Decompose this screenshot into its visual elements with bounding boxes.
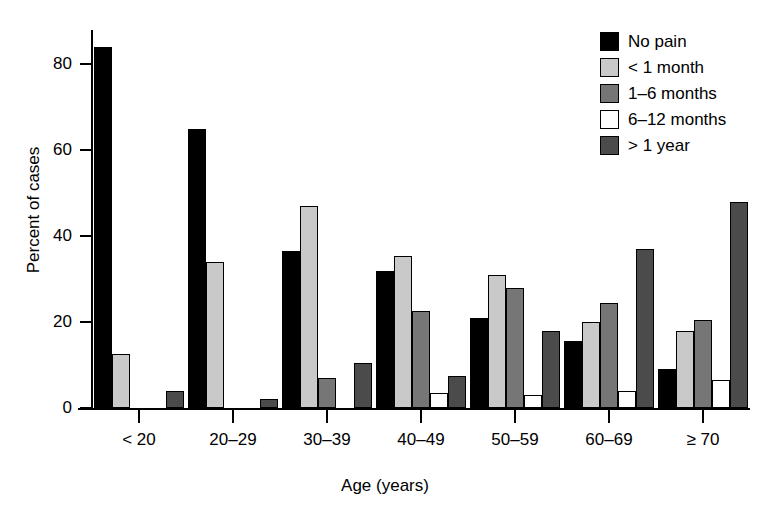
bar: [206, 262, 224, 408]
bar: [658, 369, 676, 408]
y-tick-mark: [80, 149, 92, 151]
x-tick-mark: [702, 410, 704, 423]
x-tick-mark: [138, 410, 140, 423]
bar: [730, 202, 748, 408]
bar: [600, 303, 618, 408]
y-axis-title: Percent of cases: [24, 80, 44, 340]
bar: [564, 341, 582, 408]
x-axis-line: [78, 408, 750, 410]
y-tick-label: 40: [20, 227, 72, 244]
legend-label: 6–12 months: [628, 111, 726, 128]
bar: [524, 395, 542, 408]
bar: [300, 206, 318, 408]
legend-label: 1–6 months: [628, 85, 717, 102]
bar: [712, 380, 730, 408]
bar: [112, 354, 130, 408]
legend-label: < 1 month: [628, 59, 704, 76]
legend-item: < 1 month: [600, 54, 770, 80]
bar: [260, 399, 278, 408]
legend-swatch-icon: [600, 84, 619, 103]
bar: [448, 376, 466, 408]
x-tick-mark: [232, 410, 234, 423]
legend-item: > 1 year: [600, 132, 770, 158]
y-tick-mark: [80, 235, 92, 237]
bar: [412, 311, 430, 408]
bar: [694, 320, 712, 408]
x-tick-mark: [608, 410, 610, 423]
legend-swatch-icon: [600, 136, 619, 155]
bar: [282, 251, 300, 408]
y-tick-mark: [80, 63, 92, 65]
bar: [318, 378, 336, 408]
bar: [376, 271, 394, 408]
bar: [94, 47, 112, 408]
bar: [394, 256, 412, 408]
legend-label: > 1 year: [628, 137, 690, 154]
bar: [618, 391, 636, 408]
x-axis-title: Age (years): [0, 476, 770, 496]
chart-figure: Percent of cases 020406080 < 2020–2930–3…: [0, 0, 770, 526]
x-tick-mark: [514, 410, 516, 423]
y-tick-label: 0: [20, 399, 72, 416]
y-tick-label: 60: [20, 141, 72, 158]
y-tick-mark: [80, 321, 92, 323]
bar: [188, 129, 206, 408]
bar: [636, 249, 654, 408]
bar: [354, 363, 372, 408]
bar: [676, 331, 694, 408]
legend-swatch-icon: [600, 58, 619, 77]
legend-label: No pain: [628, 33, 687, 50]
bar: [470, 318, 488, 408]
bar: [430, 393, 448, 408]
bar: [542, 331, 560, 408]
x-tick-label: ≥ 70: [643, 430, 763, 450]
legend-swatch-icon: [600, 110, 619, 129]
bar: [506, 288, 524, 408]
y-tick-label: 80: [20, 55, 72, 72]
chart-legend: No pain< 1 month1–6 months6–12 months> 1…: [600, 28, 770, 158]
bar: [582, 322, 600, 408]
legend-swatch-icon: [600, 32, 619, 51]
y-tick-label: 20: [20, 313, 72, 330]
legend-item: 6–12 months: [600, 106, 770, 132]
legend-item: No pain: [600, 28, 770, 54]
x-tick-mark: [326, 410, 328, 423]
bar: [166, 391, 184, 408]
bar: [488, 275, 506, 408]
x-tick-mark: [420, 410, 422, 423]
legend-item: 1–6 months: [600, 80, 770, 106]
